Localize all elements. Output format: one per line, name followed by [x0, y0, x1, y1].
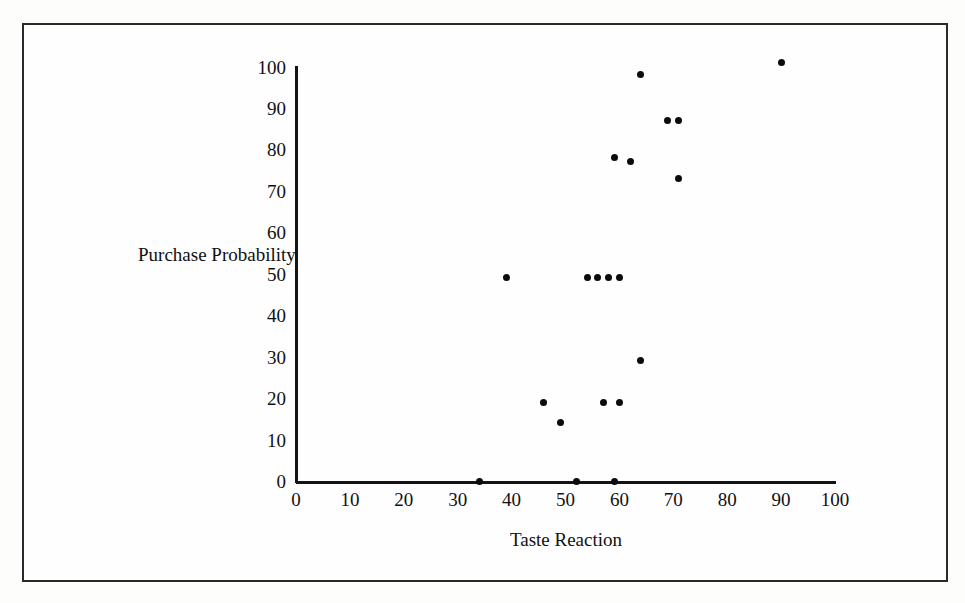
y-tick-label-wrap: 10 [236, 440, 286, 459]
y-tick-label: 50 [236, 264, 286, 283]
x-tick-label: 30 [448, 490, 467, 509]
y-tick-label-wrap: 20 [236, 398, 286, 417]
y-tick-label: 80 [236, 140, 286, 159]
y-tick-label: 0 [236, 472, 286, 491]
data-point [605, 274, 612, 281]
data-point [675, 175, 682, 182]
data-point [594, 274, 601, 281]
data-point [611, 154, 618, 161]
x-axis-title: Taste Reaction [510, 529, 622, 551]
data-point [557, 419, 564, 426]
y-tick-label: 70 [236, 181, 286, 200]
y-tick-label-wrap: 0 [236, 481, 286, 500]
data-point [637, 357, 644, 364]
x-tick-label: 80 [718, 490, 737, 509]
x-tick-label: 10 [340, 490, 359, 509]
y-tick-label: 90 [236, 98, 286, 117]
data-point [675, 117, 682, 124]
scatter-plot: 0102030405060708090100 01020304050607080… [0, 0, 965, 603]
data-point [600, 399, 607, 406]
y-tick-label: 100 [236, 57, 286, 76]
x-tick-label: 50 [556, 490, 575, 509]
data-point [616, 399, 623, 406]
y-tick-label-wrap: 100 [236, 67, 286, 86]
y-tick-label-wrap: 80 [236, 149, 286, 168]
y-tick-label-wrap: 30 [236, 357, 286, 376]
figure-container: 0102030405060708090100 01020304050607080… [0, 0, 965, 603]
x-tick-label: 20 [394, 490, 413, 509]
x-tick-label: 70 [664, 490, 683, 509]
y-tick-label: 60 [236, 223, 286, 242]
y-tick-label: 30 [236, 347, 286, 366]
data-point [573, 478, 580, 485]
y-tick-label-wrap: 40 [236, 315, 286, 334]
x-tick-label: 60 [610, 490, 629, 509]
y-tick-label-wrap: 50 [236, 274, 286, 293]
data-point [664, 117, 671, 124]
x-tick-label: 90 [772, 490, 791, 509]
x-tick-label: 100 [821, 490, 850, 509]
data-point [476, 478, 483, 485]
data-point [616, 274, 623, 281]
data-point [611, 478, 618, 485]
data-point [503, 274, 510, 281]
data-point [540, 399, 547, 406]
y-tick-label-wrap: 90 [236, 108, 286, 127]
x-axis-line [296, 481, 836, 484]
data-point [778, 59, 785, 66]
data-point [627, 158, 634, 165]
y-tick-label: 40 [236, 306, 286, 325]
data-point [637, 71, 644, 78]
y-tick-label-wrap: 70 [236, 191, 286, 210]
y-tick-label: 20 [236, 389, 286, 408]
y-axis-line [295, 66, 298, 483]
y-axis-title: Purchase Probability [138, 243, 296, 267]
x-tick-label: 0 [291, 490, 301, 509]
y-tick-label: 10 [236, 430, 286, 449]
data-point [584, 274, 591, 281]
x-tick-label: 40 [502, 490, 521, 509]
